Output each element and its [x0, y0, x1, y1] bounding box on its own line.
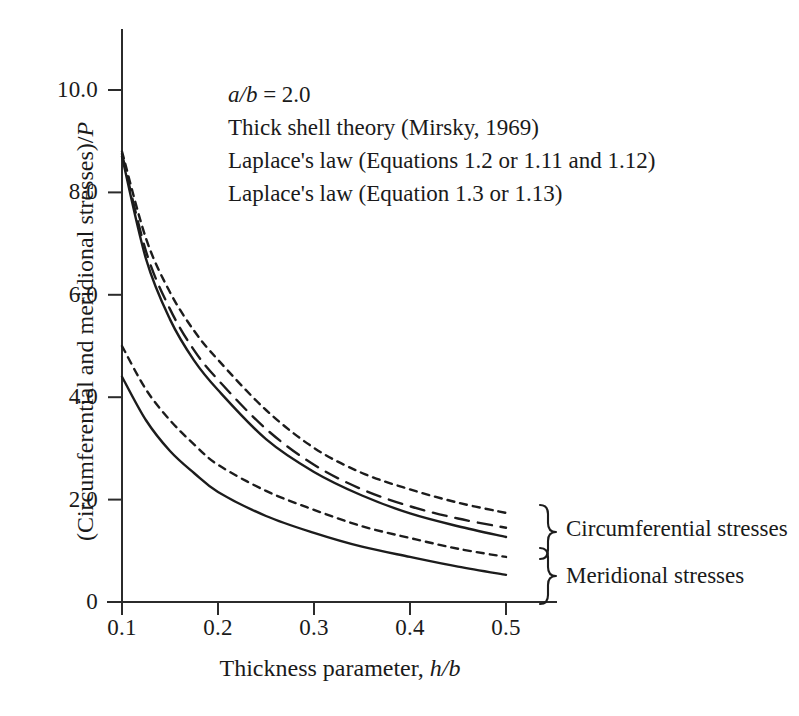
legend-ratio-symbol: a/b [228, 82, 257, 107]
xtick-label-0.2: 0.2 [203, 615, 232, 641]
legend-item-thick-shell: Thick shell theory (Mirsky, 1969) [228, 111, 655, 144]
y-axis-label: (Circumferential and meridional stresses… [72, 72, 99, 592]
curve-2 [122, 157, 506, 537]
x-axis-label-italic: h/b [430, 655, 461, 681]
curve-4 [122, 377, 506, 575]
xtick-label-0.1: 0.1 [107, 615, 136, 641]
x-axis-ticks [122, 602, 506, 615]
xtick-label-0.3: 0.3 [299, 615, 328, 641]
y-axis-label-text: (Circumferential and meridional stresses… [72, 137, 98, 542]
curve-3 [122, 346, 506, 557]
legend-item-laplace-b: Laplace's law (Equation 1.3 or 1.13) [228, 177, 655, 210]
annotation-meridional-stresses: Meridional stresses [566, 563, 744, 589]
ytick-label-0: 0 [20, 589, 98, 615]
y-axis-label-italic: P [72, 122, 98, 137]
brace-circumferential [540, 505, 556, 559]
x-axis-label: Thickness parameter, h/b [120, 655, 560, 682]
legend-item-ratio: a/b = 2.0 [228, 78, 655, 111]
legend-ratio-value: = 2.0 [257, 82, 310, 107]
y-axis-ticks [108, 90, 122, 602]
xtick-label-0.5: 0.5 [491, 615, 520, 641]
legend-block: a/b = 2.0 Thick shell theory (Mirsky, 19… [228, 78, 655, 210]
legend-item-laplace-a: Laplace's law (Equations 1.2 or 1.11 and… [228, 144, 655, 177]
annotation-circumferential-stresses: Circumferential stresses [566, 516, 788, 542]
chart-figure: 10.0 8.0 6.0 4.0 2.0 0 0.1 0.2 0.3 0.4 0… [0, 0, 799, 716]
brace-meridional [540, 548, 556, 604]
data-curves [122, 151, 506, 574]
xtick-label-0.4: 0.4 [395, 615, 424, 641]
x-axis-label-text: Thickness parameter, [220, 655, 430, 681]
